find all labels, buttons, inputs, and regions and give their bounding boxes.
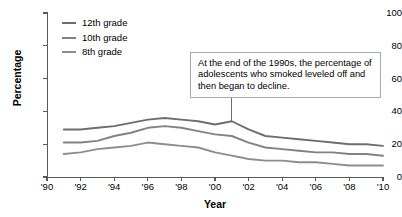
legend-swatch-icon: [62, 37, 76, 39]
legend-swatch-icon: [62, 51, 76, 53]
legend-item: 10th grade: [62, 31, 127, 46]
annotation-text: At the end of the 1990s, the percentage …: [198, 58, 374, 92]
annotation-callout: At the end of the 1990s, the percentage …: [190, 52, 381, 98]
chart-figure: 020406080100 '90'92'94'96'98'00'02'04'06…: [0, 0, 402, 217]
legend-label: 10th grade: [82, 33, 127, 43]
legend-item: 8th grade: [62, 45, 127, 60]
legend-label: 12th grade: [82, 18, 127, 28]
series-line: [64, 118, 383, 146]
legend-label: 8th grade: [82, 47, 122, 57]
series-line: [64, 126, 383, 156]
plot-lines: [0, 0, 402, 217]
legend-swatch-icon: [62, 22, 76, 24]
series-line: [64, 143, 383, 166]
chart-legend: 12th grade10th grade8th grade: [62, 16, 127, 60]
legend-item: 12th grade: [62, 16, 127, 31]
